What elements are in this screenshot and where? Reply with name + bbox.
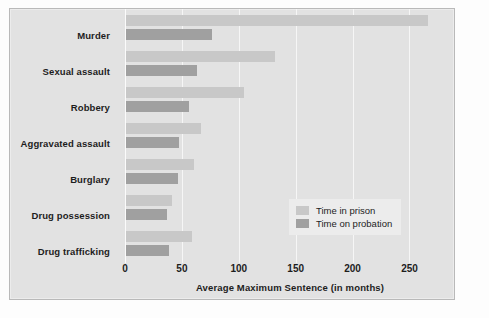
bar-aggravated-assault-probation	[126, 137, 179, 148]
bar-murder-prison	[126, 15, 428, 26]
value-axis-baseline	[125, 9, 126, 263]
x-tick-label-250: 250	[401, 263, 418, 274]
gridline	[182, 9, 183, 263]
legend-label-prison: Time in prison	[316, 205, 375, 216]
category-label-sexual-assault: Sexual assault	[0, 66, 110, 77]
x-tick-label-50: 50	[176, 263, 187, 274]
gridline	[239, 9, 240, 263]
legend-swatch-prison-icon	[296, 206, 309, 215]
category-axis: MurderSexual assaultRobberyAggravated as…	[0, 8, 116, 300]
chart-legend: Time in prison Time on probation	[289, 199, 401, 235]
bar-drug-trafficking-probation	[126, 245, 169, 256]
bar-sexual-assault-prison	[126, 51, 275, 62]
category-label-drug-trafficking: Drug trafficking	[0, 246, 110, 257]
x-tick-label-200: 200	[344, 263, 361, 274]
bar-robbery-prison	[126, 87, 244, 98]
bar-sexual-assault-probation	[126, 65, 197, 76]
chart-figure: MurderSexual assaultRobberyAggravated as…	[0, 0, 489, 318]
bar-burglary-probation	[126, 173, 178, 184]
bar-burglary-prison	[126, 159, 194, 170]
bar-murder-probation	[126, 29, 212, 40]
x-tick-label-150: 150	[287, 263, 304, 274]
legend-item-prison: Time in prison	[296, 204, 392, 217]
category-label-burglary: Burglary	[0, 174, 110, 185]
category-label-robbery: Robbery	[0, 102, 110, 113]
bar-drug-possession-probation	[126, 209, 167, 220]
bar-aggravated-assault-prison	[126, 123, 201, 134]
x-axis-label: Average Maximum Sentence (in months)	[125, 282, 455, 293]
category-label-aggravated-assault: Aggravated assault	[0, 138, 110, 149]
legend-label-probation: Time on probation	[316, 218, 392, 229]
bar-robbery-probation	[126, 101, 189, 112]
category-label-drug-possession: Drug possession	[0, 210, 110, 221]
legend-item-probation: Time on probation	[296, 217, 392, 230]
bar-drug-trafficking-prison	[126, 231, 192, 242]
x-tick-label-0: 0	[122, 263, 128, 274]
gridline	[409, 9, 410, 263]
legend-swatch-probation-icon	[296, 219, 309, 228]
bar-drug-possession-prison	[126, 195, 172, 206]
x-tick-label-100: 100	[230, 263, 247, 274]
value-axis-ticks: 050100150200250	[125, 263, 465, 279]
category-label-murder: Murder	[0, 30, 110, 41]
